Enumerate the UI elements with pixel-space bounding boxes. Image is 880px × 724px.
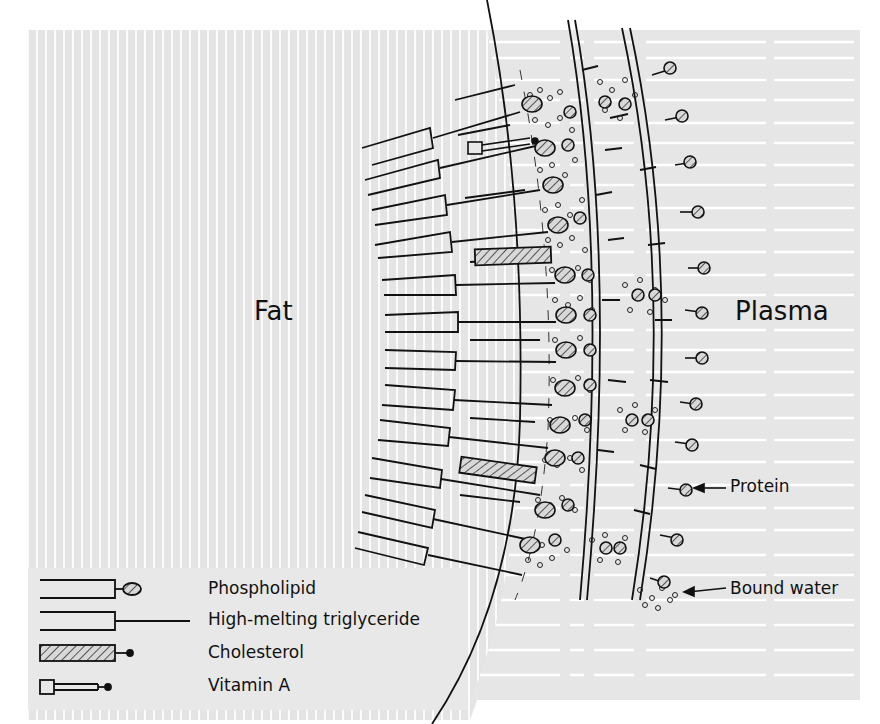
plasma-label: Plasma [735, 296, 829, 326]
legend-label-cholesterol: Cholesterol [208, 642, 304, 662]
legend-label-triglyceride: High-melting triglyceride [208, 609, 420, 629]
legend-label-vitamin-a: Vitamin A [208, 675, 290, 695]
fat-label: Fat [254, 296, 293, 326]
bound-water-label: Bound water [730, 578, 838, 598]
fat-plasma-interface-diagram: Fat Plasma Protein Bound water Phospholi… [0, 0, 880, 724]
legend-label-phospholipid: Phospholipid [208, 578, 316, 598]
plasma-region [470, 30, 860, 700]
cholesterol-molecule [475, 247, 552, 266]
diagram-canvas [0, 0, 880, 724]
protein-label: Protein [730, 476, 790, 496]
